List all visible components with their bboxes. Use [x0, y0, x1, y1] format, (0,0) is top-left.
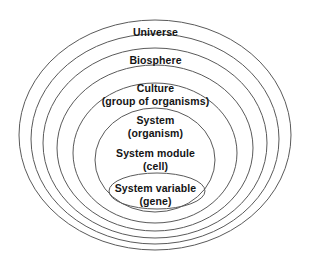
ellipse-level-4 — [73, 83, 237, 223]
diagram-canvas: UniverseBiosphereCulture(group of organi… — [0, 0, 311, 261]
ellipse-ring-group — [19, 20, 291, 250]
ellipse-level-5 — [95, 108, 215, 212]
ellipse-level-6 — [109, 173, 205, 209]
ellipse-level-3 — [57, 65, 253, 231]
nested-ellipse-diagram — [0, 0, 311, 261]
ellipse-level-0 — [19, 20, 291, 250]
ellipse-level-2 — [43, 48, 267, 238]
